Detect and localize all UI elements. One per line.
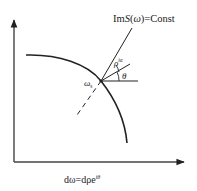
saddle-point xyxy=(99,79,102,82)
title-label: ImS(ω)=Const xyxy=(113,13,175,25)
saddle-label: ωs xyxy=(84,78,93,89)
theta-label: θ xyxy=(122,71,127,81)
rho-alpha-label: ρiα xyxy=(113,57,123,68)
constant-phase-line xyxy=(101,28,132,81)
saddle-point-diagram: ImS(ω)=Const ωs ρiα θ dω=dρeiθ xyxy=(0,0,197,191)
axes xyxy=(14,20,184,162)
angle-arc-theta xyxy=(117,72,119,81)
bottom-equation: dω=dρeiθ xyxy=(64,174,100,185)
contour-curve xyxy=(26,55,127,143)
